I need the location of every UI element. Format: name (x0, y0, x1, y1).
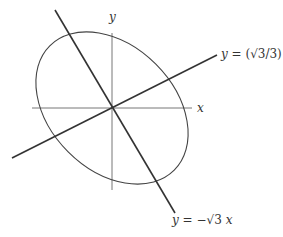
steep-line (55, 10, 175, 213)
steep-line-label-eq: = −√3 (179, 213, 226, 227)
shallow-line-label-eq: = (√3/3) (228, 47, 283, 61)
shallow-line-label: y = (√3/3) x (220, 47, 283, 61)
x-axis-label: x (197, 101, 204, 115)
diagram-canvas: y x y = (√3/3) x y = −√3 x (0, 0, 283, 237)
y-axis-label: y (108, 10, 116, 24)
steep-line-label: y = −√3 x (171, 213, 233, 227)
diagram-figure: y x y = (√3/3) x y = −√3 x (0, 0, 283, 237)
steep-line-label-x: x (226, 213, 233, 227)
shallow-line (12, 55, 217, 158)
